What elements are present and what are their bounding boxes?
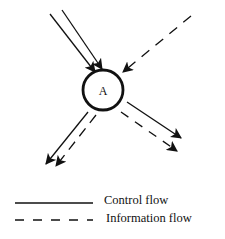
information-out-bottom-left [56, 115, 96, 166]
control-in-2 [62, 10, 102, 69]
legend-label-control-flow: Control flow [104, 194, 168, 207]
control-out-bottom-right [127, 102, 181, 138]
control-flow-in-arrows [50, 10, 102, 72]
information-out-bottom-right [121, 112, 177, 151]
node-label: A [99, 84, 108, 98]
flow-diagram: A Control flow Information flow [0, 0, 225, 239]
control-out-bottom-left [46, 112, 88, 164]
information-in [123, 16, 191, 72]
control-in-1 [50, 14, 95, 72]
legend-label-information-flow: Information flow [106, 212, 192, 225]
node-a: A [83, 70, 123, 110]
